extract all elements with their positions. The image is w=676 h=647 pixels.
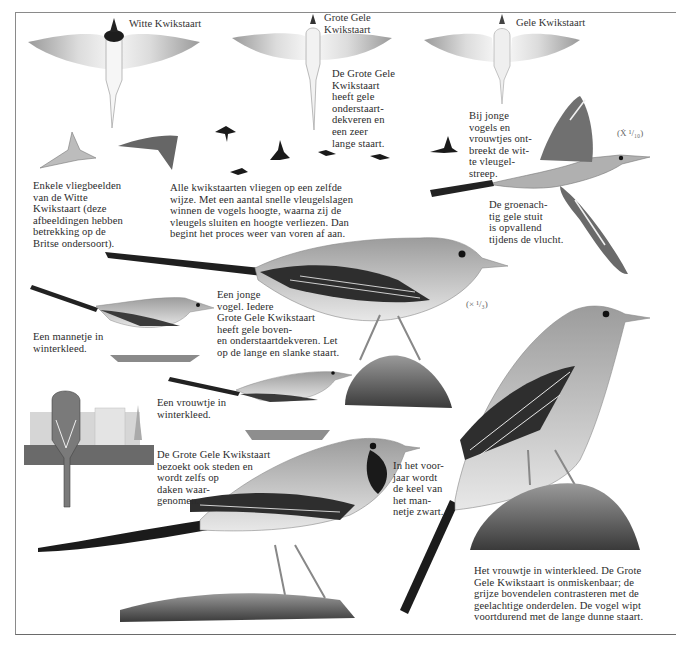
caption-stuit: De groenach- tig gele stuit is opvallend… <box>489 199 563 245</box>
label-grote-gele-kwikstaart: Grote Gele Kwikstaart <box>324 12 371 35</box>
label-gele-kwikstaart: Gele Kwikstaart <box>516 17 585 29</box>
city-rooftop-illustration <box>24 391 154 507</box>
caption-vrouwtje-onmiskenbaar: Het vrouwtje in winterkleed. De Grote Ge… <box>474 565 643 623</box>
label-witte-kwikstaart: Witte Kwikstaart <box>129 18 201 30</box>
caption-jonge-vogels: Bij jonge vogels en vrouwtjes ont- breek… <box>469 110 532 180</box>
witte-kwikstaart-flight-illustration <box>28 18 200 128</box>
flight-silhouettes <box>40 126 458 175</box>
caption-vrouwtje-winter: Een vrouwtje in winterkleed. <box>157 397 226 420</box>
caption-voorjaar: In het voor- jaar wordt de keel van het … <box>393 460 444 518</box>
caption-grote-gele-tail: De Grote Gele Kwikstaart heeft gele onde… <box>332 68 395 149</box>
caption-vliegen: Alle kwikstaarten vliegen op een zelfde … <box>170 182 353 240</box>
caption-vliegbeelden: Enkele vliegbeelden van de Witte Kwiksta… <box>33 180 123 250</box>
rock-illustration <box>345 356 452 408</box>
scale-flight: (Ẋ ¹/₁₀) <box>617 128 643 138</box>
caption-steden: De Grote Gele Kwikstaart bezoekt ook ste… <box>157 449 270 507</box>
caption-mannetje-winter: Een mannetje in winterkleed. <box>33 331 103 354</box>
scale-standing: (× ¹/₃) <box>466 299 488 309</box>
caption-jonge-vogel: Een jonge vogel. Iedere Grote Gele Kwiks… <box>217 289 339 359</box>
